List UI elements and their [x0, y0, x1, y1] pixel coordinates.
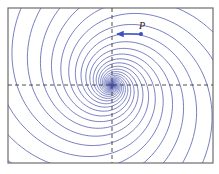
phase-portrait-diagram: P: [0, 0, 219, 174]
origin-focus: [110, 83, 113, 86]
point-p-label: P: [138, 20, 145, 31]
point-p-marker: [139, 32, 143, 36]
